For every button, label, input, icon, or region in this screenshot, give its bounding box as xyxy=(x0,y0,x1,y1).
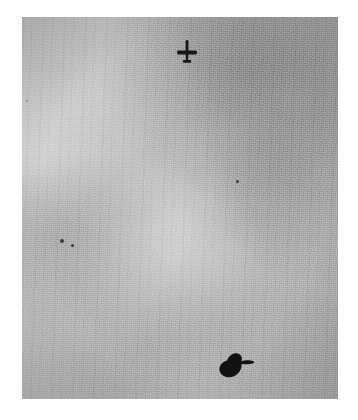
photograph-print xyxy=(22,17,338,399)
photograph-page xyxy=(0,0,358,420)
photo-vignette xyxy=(22,17,338,399)
